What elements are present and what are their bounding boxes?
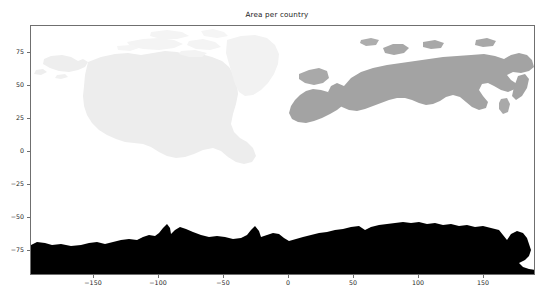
xtick-label: 150 <box>463 279 503 287</box>
region-alaska <box>34 55 88 79</box>
ytick-mark <box>27 184 30 185</box>
ytick-mark <box>27 85 30 86</box>
ytick-mark <box>27 217 30 218</box>
xtick-mark <box>223 275 224 278</box>
xtick-label: −150 <box>73 279 113 287</box>
ytick-mark <box>27 250 30 251</box>
xtick-mark <box>353 275 354 278</box>
xtick-label: 0 <box>268 279 308 287</box>
page-title: Area per country <box>0 10 554 19</box>
region-antarctica <box>31 222 535 275</box>
ytick-label: 50 <box>0 81 24 89</box>
xtick-mark <box>418 275 419 278</box>
xtick-label: 100 <box>398 279 438 287</box>
figure-canvas: Area per country <box>0 0 554 307</box>
choropleth-map <box>31 26 535 275</box>
ytick-label: −75 <box>0 246 24 254</box>
xtick-label: −50 <box>203 279 243 287</box>
plot-area <box>30 25 535 275</box>
xtick-mark <box>158 275 159 278</box>
ytick-mark <box>27 151 30 152</box>
ytick-label: 0 <box>0 147 24 155</box>
xtick-label: 50 <box>333 279 373 287</box>
ytick-label: −50 <box>0 213 24 221</box>
xtick-mark <box>483 275 484 278</box>
region-russia <box>289 38 534 123</box>
xtick-mark <box>93 275 94 278</box>
ytick-label: −25 <box>0 180 24 188</box>
xtick-label: −100 <box>138 279 178 287</box>
ytick-label: 75 <box>0 48 24 56</box>
ytick-mark <box>27 118 30 119</box>
xtick-mark <box>288 275 289 278</box>
ytick-mark <box>27 52 30 53</box>
ytick-label: 25 <box>0 114 24 122</box>
